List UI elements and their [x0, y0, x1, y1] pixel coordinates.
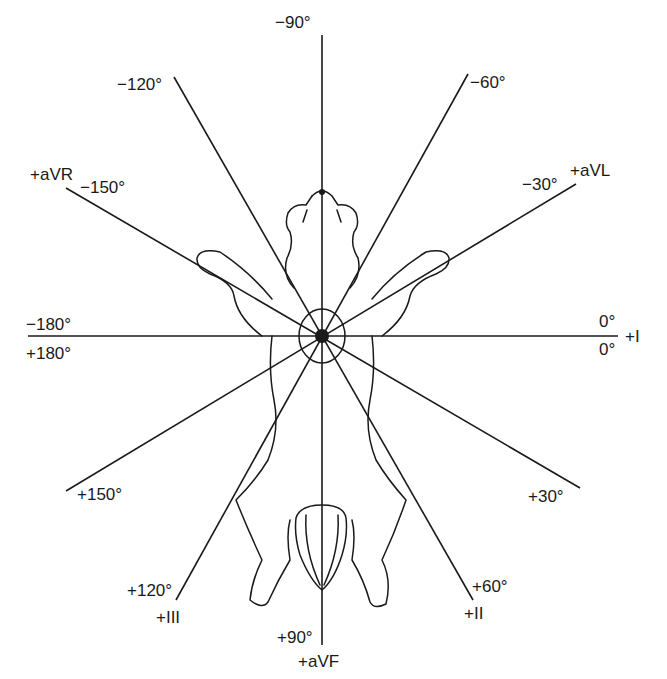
label-lead-I: +I — [625, 327, 640, 346]
label-lead-III: +III — [156, 608, 180, 627]
center-point — [315, 329, 329, 343]
dog-torso-right — [352, 336, 406, 607]
label-minus30: −30° — [522, 175, 558, 194]
dog-outline — [197, 189, 449, 607]
label-zero-bottom: 0° — [599, 340, 615, 359]
label-plus30: +30° — [528, 487, 564, 506]
label-minus60: −60° — [470, 73, 506, 92]
label-zero-top: 0° — [599, 312, 615, 331]
label-plus60: +60° — [472, 577, 508, 596]
label-minus90: −90° — [275, 13, 311, 32]
label-aVR: +aVR — [30, 165, 73, 184]
label-plus150: +150° — [77, 485, 122, 504]
dog-torso-left — [236, 336, 290, 606]
label-plus180: +180° — [26, 344, 71, 363]
label-lead-II: +II — [464, 604, 483, 623]
dog-head — [312, 191, 359, 288]
hexaxial-lead-diagram: −90° −120° −60° +aVR −150° −30° +aVL −18… — [0, 0, 667, 679]
label-minus180: −180° — [26, 315, 71, 334]
dog-left-foreleg — [197, 251, 272, 336]
label-minus120: −120° — [117, 75, 162, 94]
label-aVF: +aVF — [298, 652, 339, 671]
dog-head-left — [286, 196, 312, 288]
angle-labels: −90° −120° −60° +aVR −150° −30° +aVL −18… — [26, 13, 640, 671]
label-aVL: +aVL — [570, 161, 610, 180]
lead-axes — [28, 35, 618, 645]
dog-right-foreleg — [372, 251, 449, 336]
label-plus90: +90° — [277, 628, 313, 647]
label-plus120: +120° — [127, 581, 172, 600]
label-minus150: −150° — [80, 178, 125, 197]
